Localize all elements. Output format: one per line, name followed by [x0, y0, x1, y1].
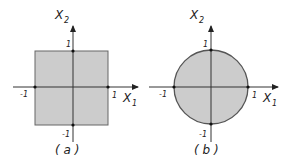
tick-neg-y: -1 — [62, 130, 70, 139]
point-pos-x — [106, 85, 109, 88]
tick-pos-y: 1 — [203, 40, 208, 49]
tick-neg-x: -1 — [20, 90, 28, 99]
point-neg-x — [33, 85, 36, 88]
point-pos-y — [209, 48, 212, 51]
point-pos-y — [71, 49, 74, 52]
point-pos-x — [246, 85, 249, 88]
tick-neg-y: -1 — [199, 130, 207, 139]
panel-b: 1 -1 1 -1 X 1 X 2 ( b ) — [149, 8, 278, 157]
unit-square-region — [35, 51, 108, 125]
panel-a: 1 -1 1 -1 X 1 X 2 ( a ) — [13, 8, 138, 157]
x2-axis-subscript: 2 — [199, 16, 204, 25]
point-neg-y — [71, 123, 74, 126]
tick-pos-x: 1 — [252, 91, 257, 100]
caption-a: ( a ) — [55, 143, 79, 157]
caption-b: ( b ) — [194, 143, 219, 157]
tick-pos-x: 1 — [112, 91, 117, 100]
x1-axis-label: X — [122, 91, 132, 105]
point-neg-x — [172, 85, 175, 88]
x2-axis-label: X — [54, 8, 64, 22]
tick-neg-x: -1 — [159, 90, 167, 99]
x1-axis-subscript: 1 — [132, 99, 137, 108]
tick-pos-y: 1 — [66, 40, 71, 49]
point-neg-y — [209, 122, 212, 125]
diagram-canvas: 1 -1 1 -1 X 1 X 2 ( a ) 1 -1 1 -1 X 1 X … — [0, 0, 291, 167]
x2-axis-subscript: 2 — [64, 16, 69, 25]
x1-axis-subscript: 1 — [272, 99, 277, 108]
x2-axis-label: X — [189, 8, 199, 22]
x1-axis-label: X — [262, 91, 272, 105]
